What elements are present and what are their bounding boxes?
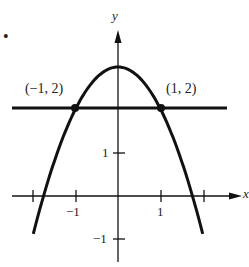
y-tick-label-neg1: −1 — [93, 231, 107, 247]
point-right-label: (1, 2) — [166, 81, 196, 97]
x-axis-arrow-icon — [229, 193, 242, 200]
y-axis-label: y — [112, 8, 118, 24]
bullet: • — [3, 28, 9, 46]
x-axis-label: x — [243, 186, 249, 202]
y-axis-arrow-icon — [115, 30, 122, 43]
x-tick-label-neg1: −1 — [66, 204, 80, 220]
point-left — [71, 104, 79, 112]
point-left-label: (−1, 2) — [25, 81, 63, 97]
chart-canvas — [0, 0, 249, 267]
point-right — [157, 104, 165, 112]
x-tick-label-1: 1 — [157, 204, 164, 220]
y-tick-label-1: 1 — [102, 145, 109, 161]
